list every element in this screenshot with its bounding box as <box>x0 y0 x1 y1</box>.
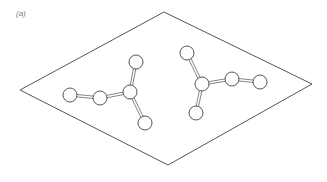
atom-circle <box>189 106 203 120</box>
atom-circle <box>129 55 143 69</box>
atom-circle <box>195 77 209 91</box>
atom-circle <box>225 72 239 86</box>
unit-cell-diagram <box>0 0 327 182</box>
atom-circle <box>63 88 77 102</box>
atom-circle <box>253 75 267 89</box>
molecules-group <box>63 46 267 130</box>
atom-circle <box>180 46 194 60</box>
unit-cell-rhombus <box>20 12 312 165</box>
atom-circle <box>138 116 152 130</box>
atom-circle <box>93 91 107 105</box>
right-molecule <box>180 46 267 120</box>
atom-circle <box>123 85 137 99</box>
